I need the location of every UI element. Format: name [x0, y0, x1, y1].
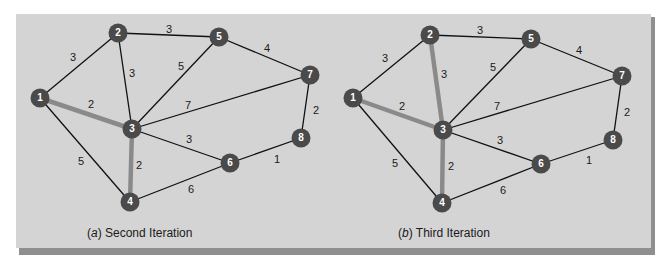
- node-8: 8: [292, 129, 311, 148]
- node-2: 2: [421, 26, 440, 45]
- node-3: 3: [434, 121, 453, 140]
- node-label: 6: [538, 158, 544, 169]
- edge-3-7: [132, 75, 310, 129]
- edge-weight-label: 5: [78, 155, 84, 167]
- node-4: 4: [433, 194, 452, 213]
- edge-3-6: [132, 129, 230, 163]
- edge-weight-label: 2: [399, 100, 405, 112]
- node-6: 6: [532, 155, 551, 174]
- edge-weight-label: 3: [441, 68, 447, 80]
- node-label: 4: [127, 196, 133, 207]
- tree-edge-2-3: [430, 35, 443, 130]
- edge-weight-label: 7: [185, 99, 191, 111]
- tree-edge-3-4: [442, 130, 443, 203]
- node-8: 8: [604, 131, 623, 150]
- caption-second-iteration: (a) Second Iteration: [87, 226, 192, 240]
- edge-weight-label: 4: [576, 44, 582, 56]
- node-label: 5: [528, 33, 534, 44]
- edge-6-8: [230, 138, 301, 163]
- edge-weight-label: 1: [274, 153, 280, 165]
- edge-7-8: [301, 75, 310, 138]
- caption-text: Third Iteration: [413, 226, 490, 240]
- edge-weight-label: 3: [129, 67, 135, 79]
- edge-weight-label: 4: [264, 42, 270, 54]
- edge-4-6: [130, 163, 230, 202]
- node-label: 1: [37, 92, 43, 103]
- node-label: 1: [350, 92, 356, 103]
- edge-weight-label: 6: [188, 183, 194, 195]
- node-label: 2: [115, 27, 121, 38]
- edge-2-3: [118, 33, 132, 129]
- node-label: 7: [619, 70, 625, 81]
- edge-weight-label: 3: [477, 24, 483, 36]
- edge-7-8: [613, 76, 622, 140]
- node-1: 1: [344, 89, 363, 108]
- edge-4-6: [442, 164, 541, 203]
- node-7: 7: [301, 66, 320, 85]
- node-1: 1: [31, 89, 50, 108]
- node-2: 2: [109, 24, 128, 43]
- node-label: 6: [227, 157, 233, 168]
- caption-letter: b: [402, 226, 409, 240]
- edge-weight-label: 5: [490, 61, 496, 73]
- edge-weight-label: 3: [497, 134, 503, 146]
- graph-b: 325332537641212345678: [344, 24, 632, 213]
- edge-weight-label: 2: [88, 98, 94, 110]
- edge-6-8: [541, 140, 613, 164]
- node-label: 3: [440, 124, 446, 135]
- node-label: 5: [216, 31, 222, 42]
- caption-third-iteration: (b) Third Iteration: [398, 226, 490, 240]
- node-7: 7: [613, 67, 632, 86]
- caption-letter: a: [91, 226, 98, 240]
- node-label: 7: [307, 69, 313, 80]
- edge-weight-label: 2: [624, 106, 630, 118]
- edge-3-6: [443, 130, 541, 164]
- graph-a: 325332537641212345678: [31, 23, 320, 212]
- edge-weight-label: 2: [136, 159, 142, 171]
- node-label: 8: [610, 134, 616, 145]
- node-3: 3: [123, 120, 142, 139]
- tree-edge-3-4: [130, 129, 132, 202]
- node-4: 4: [121, 193, 140, 212]
- node-label: 2: [427, 29, 433, 40]
- edge-weight-label: 6: [500, 184, 506, 196]
- edge-weight-label: 7: [494, 100, 500, 112]
- node-5: 5: [210, 28, 229, 47]
- edge-weight-label: 3: [382, 52, 388, 64]
- node-label: 8: [298, 132, 304, 143]
- edge-weight-label: 3: [70, 51, 76, 63]
- edge-weight-label: 2: [448, 160, 454, 172]
- edge-1-2: [353, 35, 430, 98]
- node-label: 3: [129, 123, 135, 134]
- edge-1-2: [40, 33, 118, 98]
- node-6: 6: [221, 154, 240, 173]
- node-label: 4: [439, 197, 445, 208]
- edge-weight-label: 3: [186, 133, 192, 145]
- edge-weight-label: 1: [586, 154, 592, 166]
- caption-text: Second Iteration: [102, 226, 193, 240]
- edge-weight-label: 3: [166, 23, 172, 35]
- edge-weight-label: 2: [313, 104, 319, 116]
- edge-weight-label: 5: [392, 157, 398, 169]
- node-5: 5: [522, 30, 541, 49]
- edge-weight-label: 5: [178, 60, 184, 72]
